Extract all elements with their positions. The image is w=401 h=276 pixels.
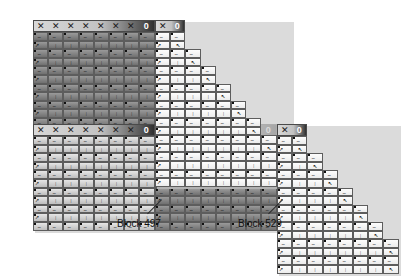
- matrix-cell: ∼: [277, 239, 292, 248]
- matrix-cell: ∼: [79, 188, 94, 197]
- matrix-cell: ∼: [323, 170, 338, 179]
- wave-icon: ∼: [296, 191, 300, 196]
- wave-icon: ∼: [220, 225, 224, 230]
- cell-corner-tick: [232, 153, 234, 155]
- matrix-cell: ∼: [246, 170, 261, 179]
- bar-icon: |: [70, 94, 71, 99]
- matrix-cell: ∼: [201, 101, 216, 110]
- matrix-cell: ∼: [185, 118, 200, 127]
- matrix-cell: ∼: [201, 205, 216, 214]
- wave-icon: ∼: [159, 138, 163, 143]
- cell-corner-tick: [232, 136, 234, 138]
- bar-icon: |: [177, 129, 178, 134]
- matrix-cell: ∼: [155, 135, 170, 144]
- wave-icon: ∼: [174, 208, 178, 213]
- bar-icon: |: [55, 111, 56, 116]
- matrix-cell: ↗: [33, 145, 48, 154]
- matrix-cell: ↖: [246, 127, 261, 136]
- matrix-cell: ↗: [155, 92, 170, 101]
- wave-icon: ∼: [159, 208, 163, 213]
- cell-corner-tick: [80, 33, 82, 35]
- matrix-cell: ∼: [216, 222, 231, 231]
- matrix-cell: ↗: [277, 145, 292, 154]
- cell-corner-tick: [34, 85, 36, 87]
- arrow-icon: ↗: [279, 147, 283, 152]
- wave-icon: ∼: [143, 156, 147, 161]
- matrix-cell: |: [261, 196, 276, 205]
- bar-icon: |: [101, 198, 102, 203]
- cell-corner-tick: [49, 50, 51, 52]
- matrix-cell: ∼: [170, 170, 185, 179]
- matrix-cell: |: [307, 196, 322, 205]
- wave-icon: ∼: [67, 104, 71, 109]
- matrix-cell: ∼: [33, 32, 48, 41]
- matrix-cell: ↗: [33, 196, 48, 205]
- bar-icon: |: [55, 147, 56, 152]
- matrix-cell: |: [185, 92, 200, 101]
- matrix-cell: |: [48, 41, 63, 50]
- matrix-cell: |: [79, 145, 94, 154]
- matrix-cell: ∼: [246, 118, 261, 127]
- wave-icon: ∼: [159, 173, 163, 178]
- arrow-icon: ↗: [279, 267, 283, 272]
- wave-icon: ∼: [83, 35, 87, 40]
- bar-icon: |: [146, 198, 147, 203]
- matrix-cell: |: [124, 196, 139, 205]
- block-header-b1: ✕✕✕✕✕✕✕0: [33, 20, 155, 32]
- bar-icon: |: [268, 163, 269, 168]
- cell-corner-tick: [64, 67, 66, 69]
- cell-corner-tick: [324, 189, 326, 191]
- matrix-cell: ↖: [338, 196, 353, 205]
- wave-icon: ∼: [37, 87, 41, 92]
- wave-icon: ∼: [296, 139, 300, 144]
- matrix-cell: ∼: [48, 205, 63, 214]
- matrix-cell: ∼: [201, 222, 216, 231]
- wave-icon: ∼: [327, 191, 331, 196]
- header-x-icon: ✕: [34, 124, 49, 136]
- bar-icon: |: [299, 267, 300, 272]
- matrix-cell: ∼: [170, 49, 185, 58]
- bar-icon: |: [70, 147, 71, 152]
- matrix-cell: ∼: [63, 49, 78, 58]
- bar-icon: |: [330, 215, 331, 220]
- arrow-icon: ↗: [35, 111, 39, 116]
- bar-icon: |: [70, 111, 71, 116]
- matrix-cell: |: [323, 248, 338, 257]
- wave-icon: ∼: [189, 225, 193, 230]
- cell-corner-tick: [110, 223, 112, 225]
- bar-icon: |: [192, 146, 193, 151]
- wave-icon: ∼: [37, 156, 41, 161]
- cell-corner-tick: [278, 137, 280, 139]
- bar-icon: |: [55, 198, 56, 203]
- matrix-cell: |: [323, 231, 338, 240]
- matrix-cell: |: [368, 265, 383, 274]
- matrix-cell: ∼: [170, 118, 185, 127]
- cell-corner-tick: [125, 171, 127, 173]
- matrix-cell: ↗: [33, 179, 48, 188]
- cell-corner-tick: [278, 240, 280, 242]
- cell-corner-tick: [186, 136, 188, 138]
- bar-icon: |: [345, 250, 346, 255]
- matrix-cell: |: [139, 196, 154, 205]
- matrix-cell: |: [94, 179, 109, 188]
- cell-corner-tick: [125, 102, 127, 104]
- matrix-cell: ∼: [185, 188, 200, 197]
- diagonal-icon: ↖: [313, 164, 317, 169]
- matrix-cell: ∼: [216, 135, 231, 144]
- bar-icon: |: [116, 164, 117, 169]
- wave-icon: ∼: [235, 104, 239, 109]
- wave-icon: ∼: [357, 225, 361, 230]
- bar-icon: |: [192, 180, 193, 185]
- bar-icon: |: [131, 164, 132, 169]
- wave-icon: ∼: [296, 242, 300, 247]
- cell-corner-tick: [95, 206, 97, 208]
- matrix-cell: ∼: [79, 222, 94, 231]
- matrix-cell: |: [79, 179, 94, 188]
- matrix-cell: |: [353, 265, 368, 274]
- cell-corner-tick: [80, 50, 82, 52]
- block-label: Block 497: [117, 218, 161, 230]
- cell-corner-tick: [34, 102, 36, 104]
- header-x-icon: ✕: [79, 20, 94, 32]
- cell-corner-tick: [156, 119, 158, 121]
- cell-corner-tick: [278, 189, 280, 191]
